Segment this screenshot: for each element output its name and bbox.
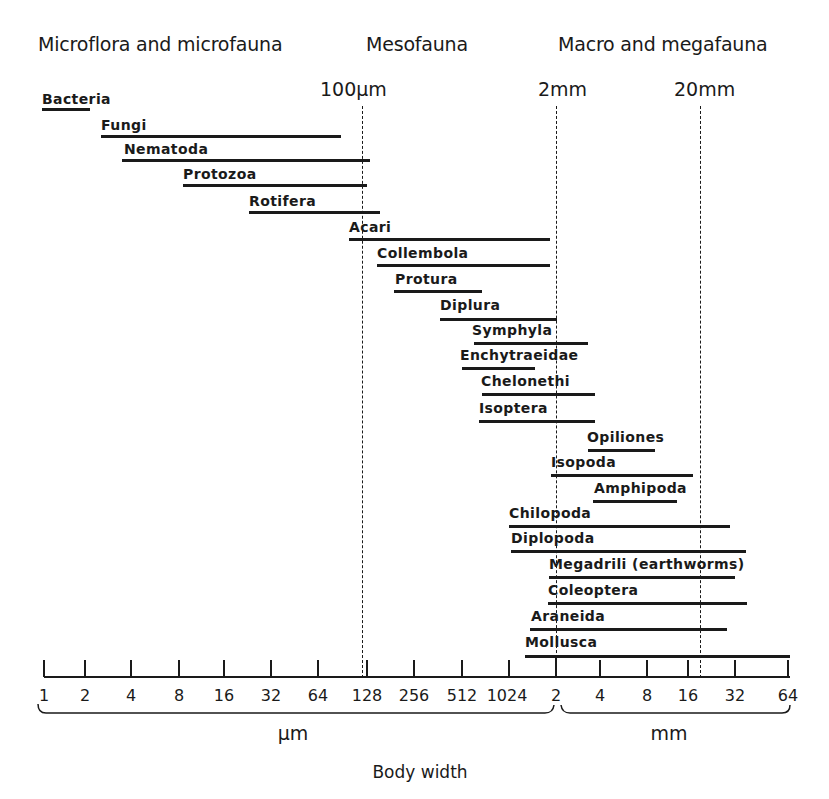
brace-um <box>38 704 554 713</box>
unit-braces <box>0 0 829 799</box>
unit-label-um: µm <box>278 722 309 744</box>
x-axis-title: Body width <box>372 762 467 782</box>
brace-mm <box>561 705 790 713</box>
unit-label-mm: mm <box>650 722 687 744</box>
